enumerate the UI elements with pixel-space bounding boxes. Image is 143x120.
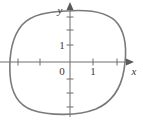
- x-axis-label: x: [131, 65, 137, 77]
- y-axis-tick-label-1: 1: [59, 39, 65, 51]
- y-axis-arrowhead-icon: [67, 2, 74, 10]
- math-figure-container: y x 0 1 1: [0, 0, 143, 120]
- x-axis-tick-label-1: 1: [90, 65, 96, 77]
- coordinate-plane-svg: y x 0 1 1: [0, 0, 143, 120]
- origin-label: 0: [59, 65, 65, 77]
- y-axis-label: y: [57, 4, 63, 16]
